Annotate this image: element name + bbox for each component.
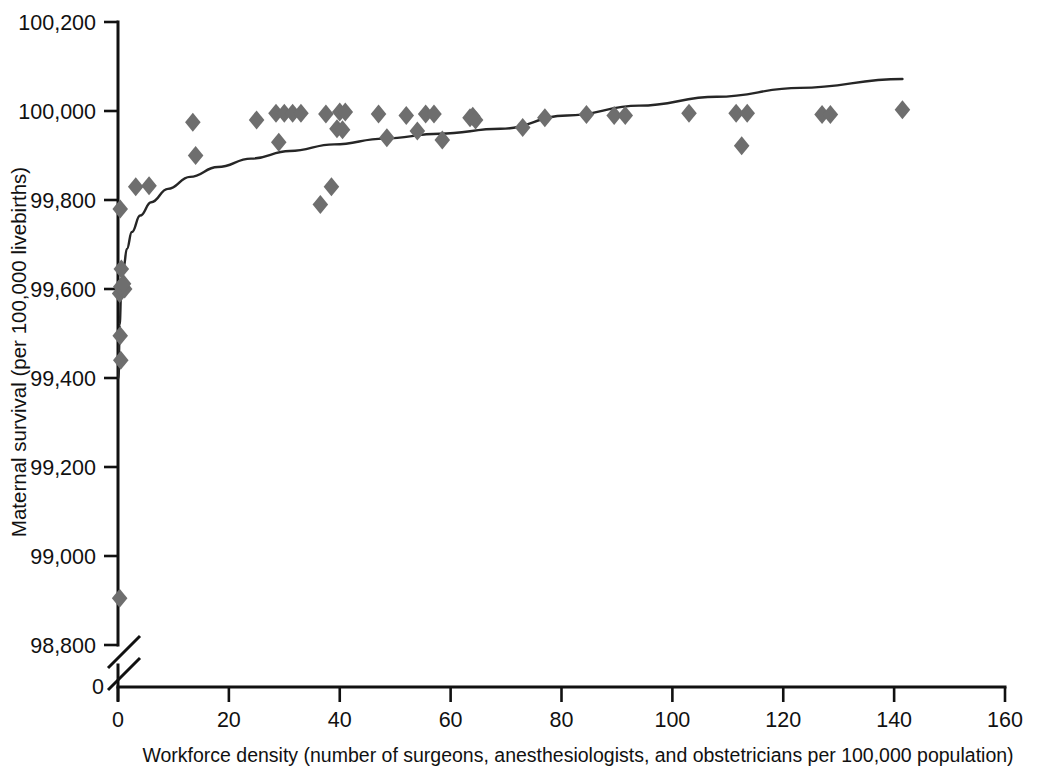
y-tick-label-99800: 99,800 [30,189,96,213]
data-point [112,589,128,608]
trend-line [119,79,903,378]
data-point [112,199,128,218]
data-point [324,177,340,196]
data-point [313,195,329,214]
data-point [318,105,334,124]
x-tick-label-80: 80 [550,708,574,732]
data-point [128,177,144,196]
data-point-markers [112,100,910,608]
x-tick-label-160: 160 [987,708,1023,732]
data-point [426,105,442,124]
x-tick-label-120: 120 [765,708,801,732]
y-tick-label-99400: 99,400 [30,367,96,391]
y-tick-label-100200: 100,200 [18,11,96,35]
data-point [537,108,553,127]
data-point [249,110,265,129]
data-point [617,106,633,125]
x-tick-label-60: 60 [439,708,463,732]
x-tick-labels: 020406080100120140160 [112,708,1023,732]
data-point [734,136,750,155]
data-point [681,104,697,123]
data-point [293,104,309,123]
x-tick-label-20: 20 [217,708,241,732]
data-point [379,128,395,147]
data-point [188,146,204,165]
data-point [515,118,531,137]
data-point [398,106,414,125]
x-tick-label-0: 0 [112,708,124,732]
data-point [271,133,287,152]
x-axis-ticks [118,687,1005,702]
data-point [410,122,426,141]
y-axis-title: Maternal survival (per 100,000 livebirth… [7,167,30,537]
scatter-plot: 98,80099,00099,20099,40099,60099,800100,… [0,0,1038,773]
x-axis-title: Workforce density (number of surgeons, a… [142,744,1013,766]
data-point [823,105,839,124]
data-point [371,105,387,124]
y-tick-label-99000: 99,000 [30,545,96,569]
x-tick-label-140: 140 [876,708,912,732]
data-point [114,259,130,278]
data-point [739,104,755,123]
data-point [895,100,911,119]
chart-figure: 98,80099,00099,20099,40099,60099,800100,… [0,0,1038,773]
y-tick-label-99200: 99,200 [30,456,96,480]
y-tick-label-98800: 98,800 [30,634,96,658]
x-tick-label-40: 40 [328,708,352,732]
y-tick-label-100000: 100,000 [18,100,96,124]
y-tick-label-99600: 99,600 [30,278,96,302]
y-axis-zero-label: 0 [92,675,104,699]
data-point [112,326,128,345]
x-tick-label-100: 100 [654,708,690,732]
data-point [185,113,201,132]
data-point [141,176,157,195]
data-point [113,351,129,370]
data-point [579,105,595,124]
